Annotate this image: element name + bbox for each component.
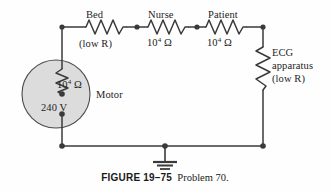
value-motor-voltage: 240 V bbox=[41, 102, 67, 113]
value-patient-exp: 4 bbox=[218, 36, 222, 44]
label-ecg-line1: ECG bbox=[272, 46, 313, 59]
resistor-bed bbox=[86, 20, 126, 34]
value-patient-unit: Ω bbox=[224, 37, 232, 48]
value-bed: (low R) bbox=[79, 38, 112, 49]
value-nurse-exp: 4 bbox=[158, 36, 162, 44]
node-nurse-patient bbox=[194, 24, 199, 29]
figure-caption: FIGURE 19–75 Problem 70. bbox=[0, 172, 330, 183]
label-bed: Bed bbox=[86, 9, 103, 20]
label-ecg-line2: apparatus bbox=[272, 59, 313, 72]
value-motor-r-base: 10 bbox=[57, 79, 68, 90]
node-top-left bbox=[59, 24, 64, 29]
resistor-ecg-apparatus bbox=[256, 47, 270, 90]
label-nurse: Nurse bbox=[148, 9, 174, 20]
value-motor-r-unit: Ω bbox=[74, 79, 82, 90]
motor-source-circle bbox=[22, 60, 90, 128]
value-motor-r-exp: 4 bbox=[68, 78, 72, 86]
label-ecg-line3: (low R) bbox=[272, 72, 313, 85]
label-ecg-apparatus: ECG apparatus (low R) bbox=[272, 46, 313, 85]
value-patient: 104 Ω bbox=[207, 37, 232, 48]
figure-19-75: Bed (low R) Nurse 104 Ω Patient 104 Ω EC… bbox=[0, 0, 330, 192]
value-nurse-base: 10 bbox=[147, 37, 158, 48]
node-motor-midpoint bbox=[59, 91, 65, 97]
circuit-schematic bbox=[0, 0, 330, 192]
resistor-patient bbox=[206, 20, 246, 34]
node-top-right bbox=[260, 24, 265, 29]
caption-figure-number: FIGURE 19–75 bbox=[101, 172, 172, 183]
resistor-nurse bbox=[148, 20, 188, 34]
label-patient: Patient bbox=[208, 9, 238, 20]
caption-problem-number: Problem 70. bbox=[177, 172, 228, 183]
value-bed-text: (low R) bbox=[79, 38, 112, 49]
ground-icon bbox=[153, 146, 177, 169]
node-bottom-left bbox=[59, 143, 65, 149]
value-patient-base: 10 bbox=[207, 37, 218, 48]
label-motor: Motor bbox=[96, 89, 123, 100]
value-nurse-unit: Ω bbox=[164, 37, 172, 48]
node-bottom-right bbox=[260, 143, 266, 149]
value-nurse: 104 Ω bbox=[147, 37, 172, 48]
value-motor-internal-resistance: 104 Ω bbox=[57, 79, 82, 90]
node-bed-nurse bbox=[134, 24, 139, 29]
